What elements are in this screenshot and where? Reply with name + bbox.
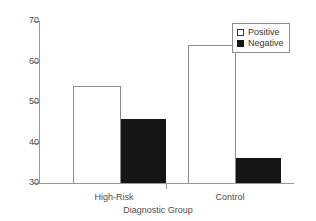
- x-category-label-high-risk: High-Risk: [62, 192, 166, 202]
- y-tick-label-60: 60: [11, 57, 39, 66]
- bar-chart: 30 40 50 60 70 High-Risk Control Diagnos…: [0, 0, 316, 221]
- y-tick-label-40: 40: [11, 138, 39, 147]
- bar-high-risk-negative: [121, 119, 166, 184]
- y-tick-label-50: 50: [11, 97, 39, 106]
- legend-swatch-negative-icon: [237, 40, 244, 47]
- bar-control-positive: [188, 45, 236, 184]
- y-axis-line: [39, 21, 40, 184]
- legend-label-negative: Negative: [248, 39, 284, 48]
- bar-high-risk-positive: [73, 86, 121, 184]
- legend-item-negative: Negative: [237, 38, 284, 49]
- y-tick-label-70: 70: [11, 16, 39, 25]
- legend-item-positive: Positive: [237, 27, 284, 38]
- bar-control-negative: [236, 158, 281, 184]
- x-axis-title: Diagnostic Group: [0, 205, 316, 215]
- legend: Positive Negative: [232, 23, 290, 53]
- legend-swatch-positive-icon: [237, 29, 244, 36]
- x-tick-mark-center: [166, 184, 167, 189]
- y-tick-label-30: 30: [11, 178, 39, 187]
- legend-label-positive: Positive: [248, 28, 280, 37]
- x-category-label-control: Control: [178, 192, 282, 202]
